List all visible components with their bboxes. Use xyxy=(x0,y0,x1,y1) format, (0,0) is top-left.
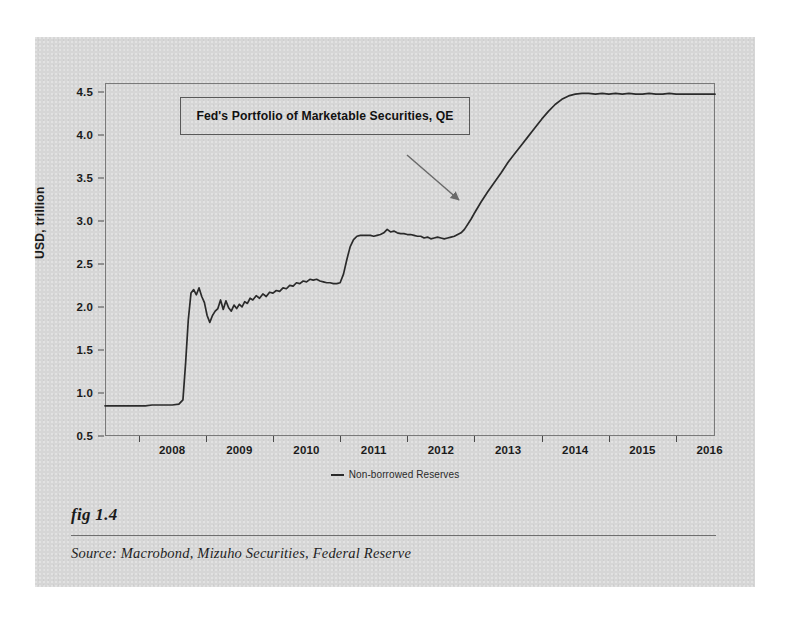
y-tick-label-0.5: 0.5 xyxy=(59,430,93,442)
x-tick-mark-2015 xyxy=(609,436,610,442)
y-tick-mark-4.5 xyxy=(98,91,104,92)
x-tick-label-2012: 2012 xyxy=(428,444,454,456)
y-tick-mark-2.5 xyxy=(98,263,104,264)
y-tick-mark-1.5 xyxy=(98,349,104,350)
y-tick-label-4.0: 4.0 xyxy=(59,129,93,141)
x-tick-mark-2008 xyxy=(139,436,140,442)
legend-swatch-non-borrowed-reserves xyxy=(331,474,344,476)
y-tick-label-4.5: 4.5 xyxy=(59,86,93,98)
caption-block: fig 1.4 Source: Macrobond, Mizuho Securi… xyxy=(35,495,755,587)
legend-label-non-borrowed-reserves: Non-borrowed Reserves xyxy=(349,469,459,480)
y-tick-mark-0.5 xyxy=(98,436,104,437)
x-tick-mark-2014 xyxy=(542,436,543,442)
y-tick-mark-2.0 xyxy=(98,306,104,307)
x-tick-label-2015: 2015 xyxy=(629,444,655,456)
x-tick-mark-2016 xyxy=(676,436,677,442)
y-tick-label-1.5: 1.5 xyxy=(59,344,93,356)
y-tick-label-3.5: 3.5 xyxy=(59,172,93,184)
x-tick-label-2011: 2011 xyxy=(361,444,387,456)
figure-number: fig 1.4 xyxy=(71,505,117,525)
y-tick-label-2.5: 2.5 xyxy=(59,258,93,270)
y-tick-mark-1.0 xyxy=(98,392,104,393)
y-tick-mark-4.0 xyxy=(98,134,104,135)
legend: Non-borrowed Reserves xyxy=(35,469,755,480)
x-tick-mark-2012 xyxy=(407,436,408,442)
caption-divider xyxy=(71,535,716,536)
x-tick-label-2014: 2014 xyxy=(562,444,588,456)
x-tick-mark-2009 xyxy=(206,436,207,442)
x-tick-mark-2013 xyxy=(474,436,475,442)
x-tick-mark-2011 xyxy=(340,436,341,442)
x-tick-label-2009: 2009 xyxy=(226,444,252,456)
series-line-non-borrowed-reserves xyxy=(105,93,715,406)
figure-source: Source: Macrobond, Mizuho Securities, Fe… xyxy=(71,545,411,562)
y-tick-label-2.0: 2.0 xyxy=(59,301,93,313)
series-plot xyxy=(105,83,715,436)
annotation-label: Fed's Portfolio of Marketable Securities… xyxy=(196,109,453,123)
x-tick-label-2008: 2008 xyxy=(159,444,185,456)
y-axis-title: USD, trillion xyxy=(33,186,47,259)
x-tick-label-2013: 2013 xyxy=(495,444,521,456)
figure-panel: USD, trillion 0.51.01.52.02.53.03.54.04.… xyxy=(35,37,755,587)
y-tick-mark-3.0 xyxy=(98,220,104,221)
y-tick-label-3.0: 3.0 xyxy=(59,215,93,227)
x-tick-label-2016: 2016 xyxy=(696,444,722,456)
x-tick-label-2010: 2010 xyxy=(293,444,319,456)
y-tick-label-1.0: 1.0 xyxy=(59,387,93,399)
chart-region: USD, trillion 0.51.01.52.02.53.03.54.04.… xyxy=(35,37,755,492)
annotation-callout-box: Fed's Portfolio of Marketable Securities… xyxy=(180,97,470,135)
y-tick-mark-3.5 xyxy=(98,177,104,178)
x-tick-mark-2010 xyxy=(273,436,274,442)
